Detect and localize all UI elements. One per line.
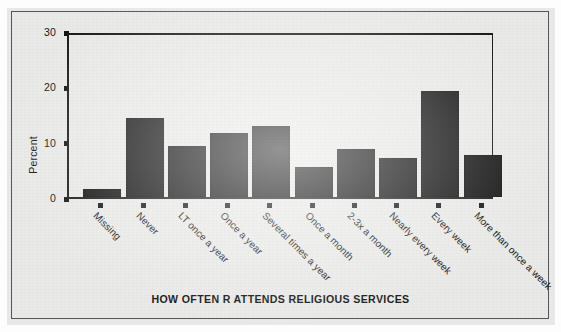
- plot-area: [67, 33, 493, 199]
- bar-never: [126, 118, 164, 197]
- bar-every-week: [421, 91, 459, 197]
- scan-margin-left: [0, 0, 7, 332]
- x-tick-mark-3: [183, 203, 188, 208]
- bar-more-than-once-a-week: [464, 155, 502, 197]
- x-tick-mark-9: [436, 203, 441, 208]
- bar-nearly-every-week: [379, 158, 417, 197]
- bar-once-a-year: [210, 133, 248, 197]
- x-tick-mark-5: [267, 203, 272, 208]
- y-tick-label-30: 30: [26, 26, 56, 38]
- scan-margin-top: [0, 0, 561, 8]
- x-tick-mark-6: [310, 203, 315, 208]
- bar-missing: [83, 189, 121, 197]
- y-axis-label-container: Percent: [26, 120, 40, 190]
- x-tick-mark-8: [394, 203, 399, 208]
- y-tick-label-20: 20: [26, 81, 56, 93]
- x-tick-mark-1: [98, 203, 103, 208]
- x-tick-mark-10: [479, 203, 484, 208]
- scan-margin-right: [555, 0, 561, 332]
- bar-once-a-month: [295, 167, 333, 197]
- scan-margin-bottom: [0, 325, 561, 332]
- x-tick-mark-7: [352, 203, 357, 208]
- bar-lt-once-a-year: [168, 146, 206, 198]
- bar-several-times-a-year: [252, 126, 290, 197]
- y-axis-label: Percent: [27, 136, 39, 174]
- bar-2-3x-a-month: [337, 149, 375, 197]
- y-tick-label-0: 0: [26, 192, 56, 204]
- x-tick-mark-2: [141, 203, 146, 208]
- x-tick-mark-4: [225, 203, 230, 208]
- bar-series: [69, 31, 492, 197]
- scanned-page: 0 10 20 30 Percent Missing Never LT once…: [0, 0, 561, 332]
- x-axis-title: HOW OFTEN R ATTENDS RELIGIOUS SERVICES: [0, 293, 561, 305]
